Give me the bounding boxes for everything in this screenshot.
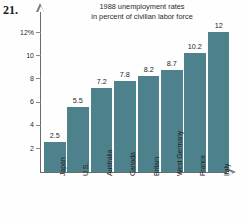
y-axis-tick [36,32,41,33]
y-axis-tick-label: 4 [0,120,34,129]
x-axis-category-label: France [198,155,207,176]
bar-value-label: 12 [205,21,232,30]
bar-chart-plot: 24681012% 2.5Japan5.5U.S.7.2Australia7.8… [0,0,246,224]
x-axis-category-label: Canada [128,152,137,176]
bar-value-label: 10.2 [182,42,209,51]
bar-value-label: 8.7 [158,59,185,68]
y-axis-arrow-inner-icon [38,6,44,12]
x-axis-category-label: Australia [105,150,114,176]
y-axis-tick-label: 12% [0,28,34,37]
figure-screenshot: 21. 1988 unemployment rates in percent o… [0,0,246,224]
x-axis-category-label: Japan [58,157,67,176]
y-axis-tick [36,125,41,126]
x-axis-category-label: Italy [222,164,231,176]
x-axis-category-label: U.S. [81,163,90,176]
bar-value-label: 2.5 [41,131,68,140]
bar [208,32,230,172]
y-axis-tick-label: 6 [0,97,34,106]
y-axis-tick [36,102,41,103]
x-axis-category-label: Britain [152,157,161,176]
y-axis-tick-label: 2 [0,144,34,153]
y-axis-tick-label: 10 [0,51,34,60]
y-axis-tick [36,148,41,149]
bar-value-label: 5.5 [65,96,92,105]
bar-value-label: 7.8 [112,70,139,79]
y-axis-tick [36,78,41,79]
x-axis-category-label: West Germany [175,131,184,176]
y-axis-tick [36,55,41,56]
y-axis-tick-label: 8 [0,74,34,83]
